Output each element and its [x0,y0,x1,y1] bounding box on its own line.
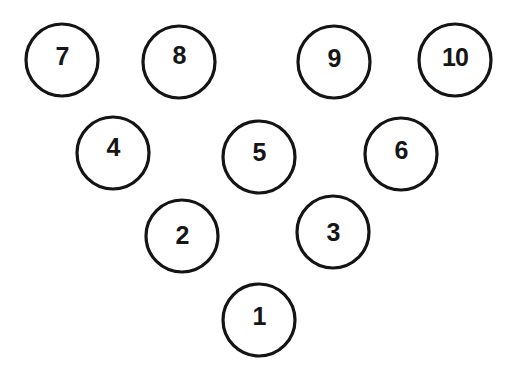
pin-9: 9 [298,26,370,98]
pin-6: 6 [365,118,437,190]
pin-1-label: 1 [253,302,267,330]
pin-10: 10 [419,24,491,96]
pin-7-label: 7 [56,42,69,70]
pin-2: 2 [146,200,218,272]
pin-4-label: 4 [107,133,121,161]
pin-5-label: 5 [253,138,267,166]
pin-10-label: 10 [442,43,468,71]
pin-1: 1 [223,284,295,356]
pin-7: 7 [26,24,98,96]
pin-3-label: 3 [327,218,340,246]
pin-8-label: 8 [173,41,187,69]
pin-6-label: 6 [395,136,408,164]
pin-8: 8 [143,26,215,98]
pin-5: 5 [223,121,295,193]
pin-3: 3 [297,196,369,268]
pin-2-label: 2 [176,221,189,249]
pin-9-label: 9 [328,44,341,72]
bowling-pin-diagram: 7 8 9 10 4 5 6 2 3 1 [0,0,517,373]
pin-4: 4 [77,117,149,189]
